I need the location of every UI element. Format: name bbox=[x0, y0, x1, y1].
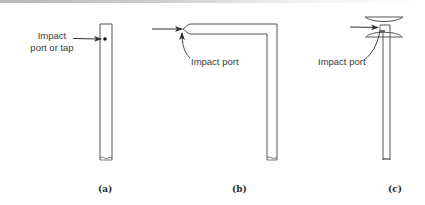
panel-b-drawing bbox=[152, 24, 277, 160]
panel-c-drawing bbox=[350, 17, 403, 160]
panel-a-label-line2: port or tap bbox=[24, 42, 80, 54]
panel-c-label: Impact port bbox=[318, 56, 366, 68]
panel-b-caption: (b) bbox=[232, 184, 247, 194]
panel-b-label: Impact port bbox=[191, 56, 239, 68]
panel-a-label: Impact port or tap bbox=[24, 30, 80, 54]
panel-a-caption: (a) bbox=[98, 184, 112, 194]
panel-c-caption: (c) bbox=[388, 184, 402, 194]
panel-a-label-line1: Impact bbox=[24, 30, 80, 42]
